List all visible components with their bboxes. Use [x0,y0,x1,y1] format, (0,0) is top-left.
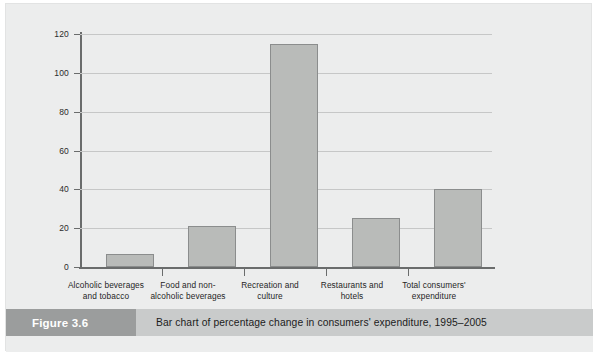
figure-caption-strip: Figure 3.6 Bar chart of percentage chang… [6,309,593,336]
y-tick-label-60: 60 [39,146,69,156]
y-tick-label-80: 80 [39,107,69,117]
x-axis-label-alcoholic-beverages-and-tobacco: Alcoholic beverages and tobacco [61,280,151,302]
bar-restaurants-and-hotels [352,218,400,267]
x-axis-label-line: Total consumers' [389,280,479,291]
x-tick-mark [244,269,245,276]
bar-food-and-non-alcoholic-beverages [188,226,236,267]
y-tick-mark [74,267,80,268]
x-axis-label-line: culture [225,291,315,302]
x-axis-label-line: and tobacco [61,291,151,302]
x-axis-label-line: Restaurants and [307,280,397,291]
y-tick-label-40: 40 [39,184,69,194]
y-tick-label-120: 120 [39,29,69,39]
x-axis-label-line: Alcoholic beverages [61,280,151,291]
y-tick-label-100: 100 [39,68,69,78]
figure-number-label: Figure 3.6 [32,317,88,329]
x-tick-mark [408,269,409,276]
page-bottom-margin [6,336,593,352]
figure-number-block: Figure 3.6 [6,309,136,336]
figure-caption-text: Bar chart of percentage change in consum… [156,317,487,328]
bar-total-consumers-expenditure [434,189,482,267]
x-axis-label-line: Recreation and [225,280,315,291]
x-axis-label-total-consumers-expenditure: Total consumers' expenditure [389,280,479,302]
x-axis-label-restaurants-and-hotels: Restaurants and hotels [307,280,397,302]
gridline-120 [80,34,492,35]
x-axis-label-line: Food and non- [143,280,233,291]
x-axis-label-line: hotels [307,291,397,302]
plot-region [80,34,492,267]
figure-panel: Percentage change 0 20 40 60 80 100 120 [5,3,592,351]
bar-alcoholic-beverages-and-tobacco [106,254,154,267]
figure-page: Percentage change 0 20 40 60 80 100 120 [0,0,597,357]
x-tick-mark [162,269,163,276]
bar-chart: Percentage change 0 20 40 60 80 100 120 [6,4,593,304]
y-tick-label-0: 0 [39,262,69,272]
bar-recreation-and-culture [270,44,318,267]
x-axis-label-line: expenditure [389,291,479,302]
x-axis-label-recreation-and-culture: Recreation and culture [225,280,315,302]
x-axis-line [79,267,495,269]
y-tick-label-20: 20 [39,223,69,233]
x-tick-mark [326,269,327,276]
x-axis-label-food-and-non-alcoholic-beverages: Food and non- alcoholic beverages [143,280,233,302]
x-axis-label-line: alcoholic beverages [143,291,233,302]
figure-caption-block: Bar chart of percentage change in consum… [136,309,593,336]
